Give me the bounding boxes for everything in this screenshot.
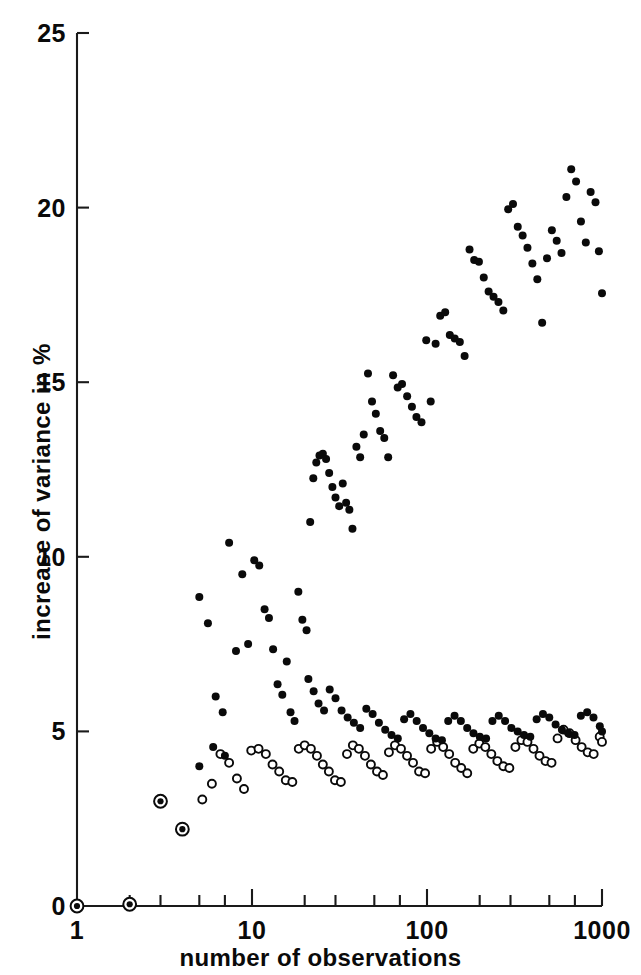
data-point-filled [369,710,377,718]
data-point-filled [298,616,306,624]
data-series-group [71,165,606,912]
data-point-open [343,750,351,758]
data-point-filled [400,715,408,723]
data-point-open [463,769,471,777]
data-point-filled [287,708,295,716]
data-point-filled [572,177,580,185]
data-point-filled [372,410,380,418]
data-point-open [361,752,369,760]
data-point-open [427,745,435,753]
data-point-filled [509,200,517,208]
data-point-filled [338,706,346,714]
data-point-open [385,748,393,756]
x-axis-ticks [130,889,602,906]
data-point-filled [528,259,536,267]
data-point-filled [331,493,339,501]
data-point-filled [232,647,240,655]
data-point-overlap-core [179,826,185,832]
data-point-filled [375,719,383,727]
data-point-filled [545,713,553,721]
data-point-filled [261,605,269,613]
data-point-filled [419,724,427,732]
data-point-filled [583,708,591,716]
data-point-filled [519,232,527,240]
data-point-filled [558,249,566,257]
data-point-filled [238,570,246,578]
data-point-filled [315,699,323,707]
data-point-filled [461,352,469,360]
data-point-filled [562,193,570,201]
data-point-filled [548,226,556,234]
data-point-filled [394,734,402,742]
y-axis-ticks [77,33,89,731]
y-tick-label-20: 20 [8,195,66,220]
data-point-filled [212,692,220,700]
data-point-filled [495,712,503,720]
data-point-filled [291,717,299,725]
x-tick-label-10: 10 [238,918,267,943]
data-point-filled [533,275,541,283]
data-point-filled [265,614,273,622]
data-point-filled [344,713,352,721]
x-axis-title: number of observations [0,944,641,972]
data-point-filled [339,479,347,487]
data-point-open [355,745,363,753]
data-point-open [233,775,241,783]
data-point-filled [274,680,282,688]
data-point-filled [398,380,406,388]
data-point-open [262,750,270,758]
data-point-open [255,745,263,753]
data-point-filled [350,719,358,727]
data-point-filled [278,691,286,699]
data-point-filled [225,539,233,547]
data-point-filled [368,397,376,405]
data-point-open [313,752,321,760]
data-point-filled [294,588,302,596]
data-point-filled [328,483,336,491]
data-point-open [548,759,556,767]
series-filled-series [73,165,606,910]
data-point-filled [598,727,606,735]
scatter-plot-canvas [0,0,641,975]
data-point-open [198,795,206,803]
data-point-open [505,764,513,772]
data-point-filled [577,218,585,226]
data-point-filled [523,244,531,252]
data-point-filled [456,338,464,346]
data-point-filled [587,188,595,196]
data-point-filled [356,453,364,461]
data-point-filled [475,258,483,266]
data-point-filled [582,239,590,247]
data-point-filled [571,731,579,739]
data-point-open [511,743,519,751]
data-point-filled [221,752,229,760]
data-point-filled [591,198,599,206]
data-point-open [598,738,606,746]
data-point-open [367,761,375,769]
data-point-filled [345,506,353,514]
data-point-open [403,752,411,760]
data-point-open [421,769,429,777]
data-point-filled [408,403,416,411]
data-point-filled [417,418,425,426]
data-point-filled [589,713,597,721]
data-point-open [208,780,216,788]
data-point-filled [326,685,334,693]
data-point-filled [244,640,252,648]
data-point-filled [342,499,350,507]
data-point-filled [312,459,320,467]
data-point-filled [381,726,389,734]
data-point-filled [384,453,392,461]
data-point-filled [269,645,277,653]
data-point-filled [567,165,575,173]
data-point-filled [303,626,311,634]
data-point-filled [501,717,509,725]
data-point-filled [444,717,452,725]
data-point-filled [441,308,449,316]
data-point-open [397,745,405,753]
data-point-open [445,750,453,758]
data-point-filled [320,706,328,714]
data-point-open [590,750,598,758]
data-point-filled [595,247,603,255]
chart-figure: 0510152025 1101001000 increase of varian… [0,0,641,975]
